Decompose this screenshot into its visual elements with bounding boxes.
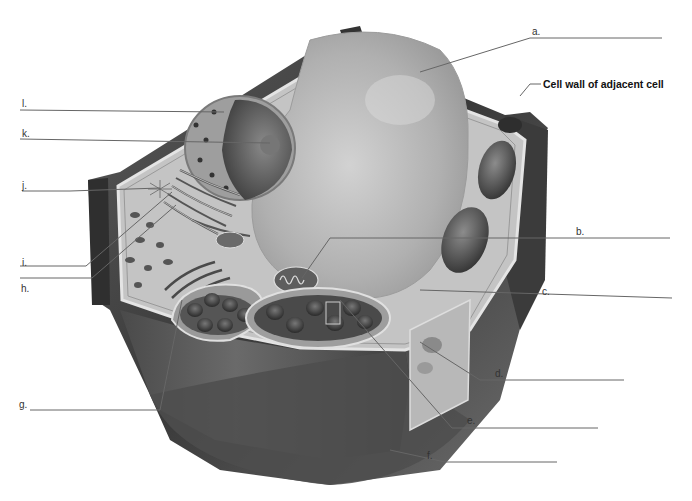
label-k: k. <box>22 129 30 139</box>
plant-cell-diagram <box>0 0 692 501</box>
label-a: a. <box>532 27 540 37</box>
label-g: g. <box>19 400 27 410</box>
label-c: c. <box>542 287 550 297</box>
chloroplast-center <box>246 288 390 348</box>
label-i: i. <box>22 258 27 268</box>
label-j: j. <box>22 181 27 191</box>
label-h: h. <box>21 284 29 294</box>
label-b: b. <box>576 227 584 237</box>
label-f: f. <box>427 451 433 461</box>
label-e: e. <box>467 416 475 426</box>
label-d: d. <box>495 369 503 379</box>
label-cell-wall-adjacent: Cell wall of adjacent cell <box>543 79 664 90</box>
label-l: l. <box>22 99 27 109</box>
